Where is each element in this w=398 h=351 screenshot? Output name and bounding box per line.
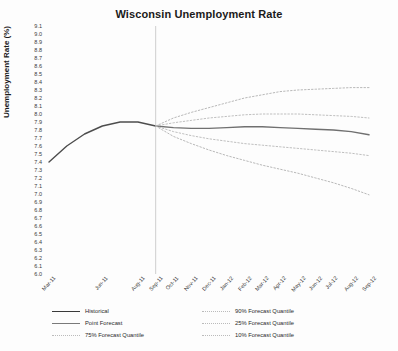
- y-tick-label: 6.6: [22, 223, 42, 229]
- y-tick-label: 9.1: [22, 23, 42, 29]
- legend-label: Point Forecast: [85, 320, 122, 326]
- y-tick-label: 8.9: [22, 39, 42, 45]
- x-tick-label: Nov-11: [183, 275, 199, 292]
- y-tick-label: 6.4: [22, 239, 42, 245]
- y-tick-label: 8.5: [22, 71, 42, 77]
- legend-item: 10% Forecast Quantile: [202, 330, 294, 340]
- x-tick-label: Mar-11: [41, 275, 57, 292]
- legend-label: Historical: [85, 308, 109, 314]
- y-axis-tick-labels: 9.19.08.98.88.78.68.58.48.38.28.18.07.97…: [18, 26, 42, 274]
- x-tick-label: Sep-11: [147, 275, 163, 292]
- y-tick-label: 8.0: [22, 111, 42, 117]
- plot-svg: [44, 26, 374, 274]
- y-tick-label: 7.7: [22, 135, 42, 141]
- y-tick-label: 8.1: [22, 103, 42, 109]
- y-tick-label: 8.4: [22, 79, 42, 85]
- y-tick-label: 7.4: [22, 159, 42, 165]
- legend-swatch: [202, 323, 230, 324]
- y-tick-label: 7.6: [22, 143, 42, 149]
- legend-label: 75% Forecast Quantile: [85, 332, 144, 338]
- legend-label: 10% Forecast Quantile: [235, 332, 294, 338]
- legend-item: 75% Forecast Quantile: [52, 330, 144, 340]
- y-tick-label: 8.6: [22, 63, 42, 69]
- y-tick-label: 7.9: [22, 119, 42, 125]
- x-tick-label: Apr-12: [272, 275, 288, 291]
- legend-swatch: [202, 335, 230, 336]
- series-line: [156, 126, 369, 195]
- legend-item: Point Forecast: [52, 318, 122, 328]
- series-line: [49, 122, 156, 162]
- y-tick-label: 7.5: [22, 151, 42, 157]
- x-tick-label: Feb-12: [236, 275, 252, 292]
- x-tick-label: Aug-11: [130, 275, 146, 292]
- legend-item: Historical: [52, 306, 109, 316]
- y-tick-label: 7.2: [22, 175, 42, 181]
- y-tick-label: 6.1: [22, 263, 42, 269]
- y-tick-label: 6.3: [22, 247, 42, 253]
- y-tick-label: 6.5: [22, 231, 42, 237]
- plot-area: [44, 26, 374, 274]
- y-tick-label: 9.0: [22, 31, 42, 37]
- x-tick-label: Aug-12: [343, 275, 359, 292]
- x-tick-label: Oct-11: [165, 275, 180, 291]
- y-tick-label: 6.2: [22, 255, 42, 261]
- chart-legend: Historical90% Forecast QuantilePoint For…: [52, 306, 372, 344]
- y-tick-label: 7.3: [22, 167, 42, 173]
- series-line: [156, 88, 369, 126]
- y-tick-label: 6.7: [22, 215, 42, 221]
- x-tick-label: May-12: [290, 275, 307, 293]
- legend-swatch: [52, 335, 80, 336]
- x-tick-label: Jun-11: [94, 275, 109, 291]
- chart-title: Wisconsin Unemployment Rate: [0, 8, 398, 20]
- x-tick-label: Dec-11: [201, 275, 217, 292]
- y-tick-label: 8.8: [22, 47, 42, 53]
- x-tick-label: Jul-12: [324, 275, 338, 290]
- legend-swatch: [52, 323, 80, 324]
- series-line: [156, 114, 369, 126]
- y-tick-label: 7.1: [22, 183, 42, 189]
- y-tick-label: 6.0: [22, 271, 42, 277]
- y-axis-title: Unemployment Rate (%): [2, 104, 11, 118]
- legend-item: 90% Forecast Quantile: [202, 306, 294, 316]
- legend-swatch: [52, 311, 80, 312]
- legend-swatch: [202, 311, 230, 312]
- x-tick-label: Sep-12: [361, 275, 377, 292]
- x-tick-label: Jun-12: [307, 275, 323, 292]
- y-tick-label: 8.3: [22, 87, 42, 93]
- series-line: [156, 126, 369, 135]
- y-tick-label: 6.8: [22, 207, 42, 213]
- x-tick-label: Mar-12: [254, 275, 270, 292]
- legend-item: 25% Forecast Quantile: [202, 318, 294, 328]
- y-tick-label: 8.7: [22, 55, 42, 61]
- y-tick-label: 8.2: [22, 95, 42, 101]
- x-tick-label: Jan-12: [218, 275, 234, 292]
- y-tick-label: 7.8: [22, 127, 42, 133]
- y-tick-label: 6.9: [22, 199, 42, 205]
- legend-label: 25% Forecast Quantile: [235, 320, 294, 326]
- y-tick-label: 7.0: [22, 191, 42, 197]
- chart-container: Wisconsin Unemployment Rate Unemployment…: [0, 0, 398, 351]
- legend-label: 90% Forecast Quantile: [235, 308, 294, 314]
